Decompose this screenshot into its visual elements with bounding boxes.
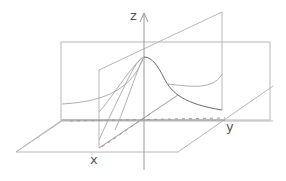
curve-projection-right [168, 74, 222, 86]
vertical-plane-slanted [99, 12, 222, 148]
z-axis-label: z [130, 8, 137, 23]
diagram-canvas: z y x [0, 0, 286, 181]
curve-projection-1 [62, 57, 144, 104]
3d-bell-curve-diagram: z y x [0, 0, 286, 181]
curve-projection-4 [115, 57, 144, 130]
x-axis-label: x [90, 152, 98, 167]
curve-projection-2 [99, 57, 144, 112]
slanted-plane-outline [99, 12, 222, 148]
y-axis-label: y [226, 119, 234, 134]
ground-plane-left-edge [16, 120, 62, 152]
